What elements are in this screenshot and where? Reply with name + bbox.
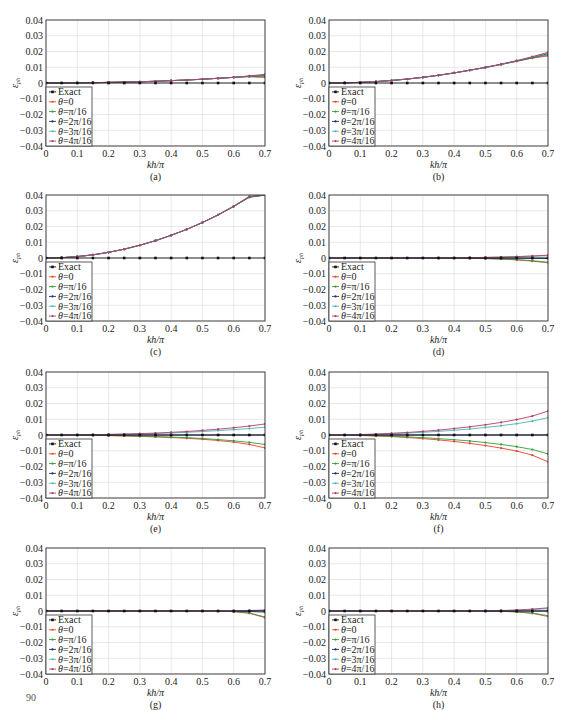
chart-a: 0.040.030.020.010−0.01−0.02−0.03−0.0400.…	[0, 0, 283, 178]
x-tick-label: 0.5	[196, 676, 209, 687]
x-tick-label: 0.3	[134, 500, 147, 511]
y-axis-label: εph	[9, 606, 21, 616]
y-tick-label: 0.01	[309, 62, 327, 73]
x-tick-label: 0.4	[448, 323, 461, 334]
y-tick-label: 0.04	[309, 367, 327, 378]
x-tick-label: 0.1	[354, 676, 367, 687]
y-tick-label: 0	[321, 430, 326, 441]
legend-entry: θ=4π/16	[58, 663, 91, 674]
x-tick-label: 0	[327, 676, 332, 687]
x-tick-label: 0.1	[71, 500, 84, 511]
x-tick-label: 0.3	[417, 676, 430, 687]
chart-panel-b: 0.040.030.020.010−0.01−0.02−0.03−0.0400.…	[283, 0, 566, 178]
x-tick-label: 0.7	[259, 323, 272, 334]
y-tick-label: −0.03	[303, 653, 326, 664]
chart-b: 0.040.030.020.010−0.01−0.02−0.03−0.0400.…	[283, 0, 566, 178]
x-tick-label: 0.2	[102, 148, 115, 159]
y-axis-label: εph	[9, 430, 21, 440]
y-tick-label: 0.03	[309, 205, 327, 216]
x-tick-label: 0.1	[354, 323, 367, 334]
y-tick-label: −0.03	[20, 477, 43, 488]
y-tick-label: 0.03	[309, 558, 327, 569]
y-tick-label: −0.03	[20, 125, 43, 136]
legend: Exactθ=0θ=π/16θ=2π/16θ=3π/16θ=4π/16	[46, 261, 92, 321]
x-tick-label: 0	[44, 676, 49, 687]
chart-panel-c: 0.040.030.020.010−0.01−0.02−0.03−0.0400.…	[0, 175, 283, 353]
y-tick-label: 0	[38, 430, 43, 441]
y-tick-label: −0.02	[20, 109, 43, 120]
y-tick-label: −0.03	[303, 477, 326, 488]
y-tick-label: 0.01	[309, 237, 327, 248]
x-tick-label: 0.6	[227, 500, 240, 511]
x-tick-label: 0.6	[510, 148, 523, 159]
y-tick-label: −0.03	[20, 653, 43, 664]
y-tick-label: 0.03	[26, 558, 44, 569]
chart-c: 0.040.030.020.010−0.01−0.02−0.03−0.0400.…	[0, 175, 283, 353]
y-tick-label: −0.04	[20, 141, 43, 152]
y-tick-label: −0.04	[303, 316, 326, 327]
x-tick-label: 0.3	[134, 676, 147, 687]
x-tick-label: 0.7	[542, 148, 555, 159]
y-tick-label: −0.03	[303, 125, 326, 136]
x-tick-label: 0.2	[385, 676, 398, 687]
x-tick-label: 0.3	[417, 148, 430, 159]
x-tick-label: 0.6	[227, 323, 240, 334]
y-tick-label: 0.02	[309, 574, 327, 585]
x-tick-label: 0.1	[71, 676, 84, 687]
x-tick-label: 0.5	[196, 323, 209, 334]
y-tick-label: 0.04	[26, 367, 44, 378]
y-tick-label: 0	[321, 606, 326, 617]
y-tick-label: 0.02	[309, 221, 327, 232]
y-axis-label: εph	[292, 253, 304, 263]
x-tick-label: 0.7	[542, 323, 555, 334]
x-tick-label: 0.7	[259, 500, 272, 511]
chart-panel-h: 0.040.030.020.010−0.01−0.02−0.03−0.0400.…	[283, 528, 566, 706]
y-tick-label: −0.01	[303, 621, 326, 632]
legend-entry: θ=4π/16	[341, 487, 374, 498]
y-tick-label: 0.03	[309, 30, 327, 41]
y-tick-label: 0	[321, 78, 326, 89]
y-tick-label: 0.04	[26, 15, 44, 26]
y-tick-label: 0	[321, 253, 326, 264]
x-tick-label: 0.4	[165, 676, 178, 687]
x-tick-label: 0.5	[479, 676, 492, 687]
x-tick-label: 0.2	[385, 323, 398, 334]
y-tick-label: 0.02	[309, 46, 327, 57]
legend: Exactθ=0θ=π/16θ=2π/16θ=3π/16θ=4π/16	[329, 86, 375, 146]
legend-entry: θ=4π/16	[341, 135, 374, 146]
legend: Exactθ=0θ=π/16θ=2π/16θ=3π/16θ=4π/16	[329, 261, 375, 321]
x-axis-label: kh/π	[147, 334, 165, 345]
x-tick-label: 0	[327, 323, 332, 334]
y-tick-label: 0.02	[26, 574, 44, 585]
y-tick-label: 0.03	[26, 205, 44, 216]
y-axis-label: εph	[292, 606, 304, 616]
y-tick-label: 0.04	[309, 543, 327, 554]
x-tick-label: 0.1	[71, 323, 84, 334]
x-axis-label: kh/π	[147, 159, 165, 170]
y-tick-label: 0.04	[26, 543, 44, 554]
x-axis-label: kh/π	[147, 687, 165, 698]
x-tick-label: 0.4	[448, 148, 461, 159]
chart-f: 0.040.030.020.010−0.01−0.02−0.03−0.0400.…	[283, 352, 566, 530]
x-tick-label: 0.4	[165, 148, 178, 159]
legend: Exactθ=0θ=π/16θ=2π/16θ=3π/16θ=4π/16	[329, 438, 375, 498]
y-tick-label: −0.03	[20, 300, 43, 311]
y-tick-label: −0.02	[303, 637, 326, 648]
x-tick-label: 0.6	[227, 676, 240, 687]
x-tick-label: 0.3	[134, 148, 147, 159]
x-tick-label: 0.1	[71, 148, 84, 159]
legend: Exactθ=0θ=π/16θ=2π/16θ=3π/16θ=4π/16	[46, 86, 92, 146]
y-tick-label: −0.01	[20, 268, 43, 279]
x-tick-label: 0.7	[259, 676, 272, 687]
y-tick-label: −0.02	[303, 109, 326, 120]
x-tick-label: 0.2	[102, 676, 115, 687]
x-tick-label: 0.5	[196, 500, 209, 511]
y-tick-label: 0.02	[26, 221, 44, 232]
chart-g: 0.040.030.020.010−0.01−0.02−0.03−0.0400.…	[0, 528, 283, 706]
y-tick-label: 0.01	[26, 237, 44, 248]
y-tick-label: −0.04	[303, 493, 326, 504]
x-tick-label: 0.2	[385, 148, 398, 159]
chart-h: 0.040.030.020.010−0.01−0.02−0.03−0.0400.…	[283, 528, 566, 706]
y-tick-label: 0.01	[309, 590, 327, 601]
y-tick-label: 0.04	[26, 190, 44, 201]
